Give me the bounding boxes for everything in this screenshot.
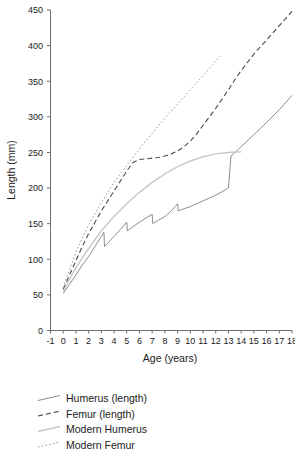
x-tick-label: 12	[211, 336, 221, 346]
series-lines	[63, 11, 292, 293]
x-tick-label: 13	[223, 336, 233, 346]
chart-canvas: 050100150200250300350400450 -10123456789…	[0, 0, 295, 463]
legend-label: Humerus (length)	[66, 392, 147, 404]
y-tick-label: 350	[28, 77, 43, 87]
y-tick-label: 0	[38, 326, 43, 336]
x-tick-label: 17	[274, 336, 284, 346]
x-tick-label: 4	[112, 336, 117, 346]
x-tick-label: 15	[249, 336, 259, 346]
x-tick-label: 2	[86, 336, 91, 346]
x-tick-label: 6	[137, 336, 142, 346]
x-tick-label: 16	[262, 336, 272, 346]
x-tick-label: 9	[175, 336, 180, 346]
series-line-modern-femur	[63, 56, 219, 287]
series-line-humerus-length	[63, 95, 292, 293]
x-axis-tick-labels: -10123456789101112131415161718	[46, 336, 295, 346]
x-tick-label: 11	[198, 336, 207, 346]
y-axis-tick-labels: 050100150200250300350400450	[28, 5, 43, 336]
growth-curve-figure: 050100150200250300350400450 -10123456789…	[0, 0, 295, 463]
series-line-modern-humerus	[63, 152, 241, 292]
x-tick-label: 1	[73, 336, 78, 346]
series-line-femur-length	[63, 11, 292, 289]
legend-label: Modern Femur	[66, 439, 135, 451]
y-tick-label: 450	[28, 5, 43, 15]
x-tick-label: 8	[162, 336, 167, 346]
y-tick-label: 100	[28, 255, 43, 265]
x-tick-label: 0	[61, 336, 66, 346]
x-tick-label: 18	[287, 336, 295, 346]
y-tick-label: 250	[28, 148, 43, 158]
x-axis-title: Age (years)	[143, 352, 197, 364]
legend-swatch	[38, 396, 60, 401]
y-axis-tickmarks	[47, 10, 51, 331]
x-tick-label: 5	[124, 336, 129, 346]
legend-label: Modern Humerus	[66, 423, 147, 435]
x-tick-label: 3	[99, 336, 104, 346]
x-tick-label: 7	[150, 336, 155, 346]
x-tick-label: 14	[236, 336, 246, 346]
legend-swatch	[38, 411, 60, 416]
legend-swatch	[38, 427, 60, 432]
y-axis-title: Length (mm)	[5, 140, 17, 200]
legend-label: Femur (length)	[66, 408, 135, 420]
legend-swatch	[38, 442, 60, 447]
x-tick-label: -1	[46, 336, 54, 346]
y-tick-label: 400	[28, 41, 43, 51]
y-tick-label: 150	[28, 219, 43, 229]
y-tick-label: 50	[33, 290, 43, 300]
y-tick-label: 200	[28, 183, 43, 193]
legend: Humerus (length)Femur (length)Modern Hum…	[38, 392, 147, 451]
x-tick-label: 10	[185, 336, 195, 346]
y-tick-label: 300	[28, 112, 43, 122]
